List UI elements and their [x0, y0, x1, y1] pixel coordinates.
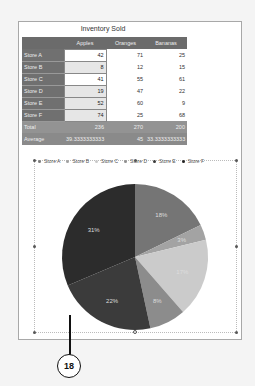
slice-label: 8%: [153, 298, 162, 304]
slice-label: 18%: [155, 212, 168, 218]
slice-label: 31%: [88, 227, 101, 233]
slice-label: 17%: [176, 269, 189, 275]
slice-label: 22%: [106, 298, 119, 304]
pie-chart[interactable]: 18%3%17%8%22%31%: [0, 0, 255, 386]
callout-number: 18: [57, 354, 81, 378]
slice-label: 3%: [177, 237, 186, 243]
callout-line: [69, 315, 71, 355]
